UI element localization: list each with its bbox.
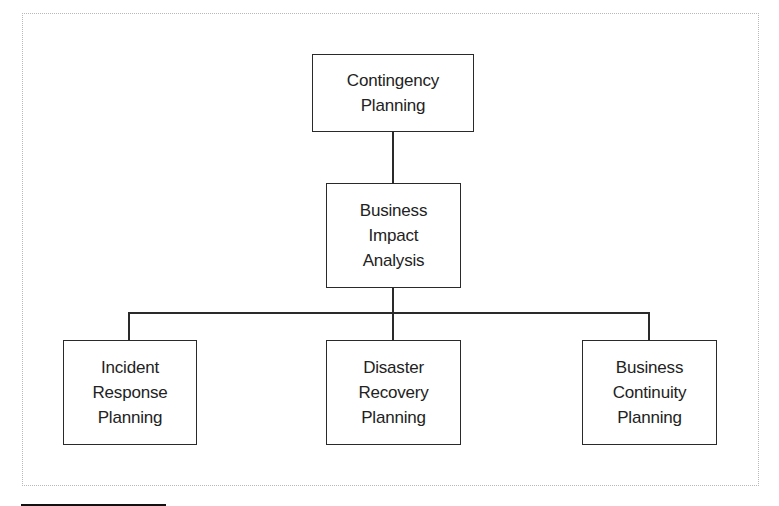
node-business-continuity-planning: Business Continuity Planning (582, 340, 717, 445)
node-incident-response-planning: Incident Response Planning (63, 340, 197, 445)
node-business-impact-analysis: Business Impact Analysis (326, 183, 461, 288)
node-label-line: Recovery (358, 380, 428, 405)
connector-horizontal-bar (128, 312, 650, 314)
connector-root-to-bia (392, 131, 394, 184)
node-label-line: Impact (369, 223, 419, 248)
node-disaster-recovery-planning: Disaster Recovery Planning (326, 340, 461, 445)
node-label-line: Analysis (363, 248, 425, 273)
node-label-line: Planning (617, 405, 682, 430)
connector-to-incident (128, 312, 130, 340)
node-label-line: Incident (101, 355, 159, 380)
node-contingency-planning: Contingency Planning (312, 54, 474, 132)
node-label-line: Business (360, 198, 427, 223)
connector-to-continuity (648, 312, 650, 340)
node-label-line: Business (616, 355, 683, 380)
node-label-line: Planning (98, 405, 163, 430)
node-label-line: Disaster (363, 355, 424, 380)
node-label-line: Response (93, 380, 168, 405)
node-label-line: Continuity (613, 380, 687, 405)
node-label-line: Contingency (347, 68, 439, 93)
node-label-line: Planning (361, 93, 426, 118)
node-label-line: Planning (361, 405, 426, 430)
